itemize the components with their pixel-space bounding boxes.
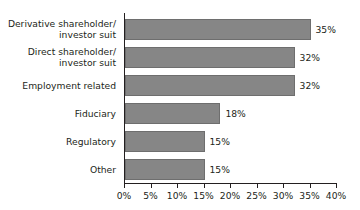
bar [125, 103, 220, 124]
bar-value-label: 15% [210, 127, 230, 155]
y-axis-line [124, 13, 125, 184]
x-tick [151, 184, 152, 188]
bar-value-label: 32% [300, 43, 320, 71]
x-tick-label: 40% [326, 190, 346, 201]
bar-value-label: 35% [316, 15, 336, 43]
x-tick-label: 0% [117, 190, 132, 201]
bar-row: Direct shareholder/ investor suit32% [0, 43, 360, 71]
x-tick-label: 15% [193, 190, 213, 201]
bar-chart: Derivative shareholder/ investor suit35%… [0, 0, 360, 210]
bar-value-label: 15% [210, 155, 230, 183]
bar-row: Employment related32% [0, 71, 360, 99]
category-label: Regulatory [0, 127, 120, 155]
category-label: Employment related [0, 71, 120, 99]
bar-value-label: 32% [300, 71, 320, 99]
x-tick [283, 184, 284, 188]
x-tick-label: 30% [273, 190, 293, 201]
x-tick [310, 184, 311, 188]
x-tick [257, 184, 258, 188]
x-tick-label: 25% [246, 190, 266, 201]
bar-row: Other15% [0, 155, 360, 183]
x-tick [230, 184, 231, 188]
bar [125, 19, 311, 40]
x-tick-label: 10% [167, 190, 187, 201]
bar-row: Fiduciary18% [0, 99, 360, 127]
bar [125, 159, 205, 180]
bar [125, 47, 295, 68]
bar-value-label: 18% [225, 99, 245, 127]
x-tick [336, 184, 337, 188]
category-label: Direct shareholder/ investor suit [0, 43, 120, 71]
bar-row: Derivative shareholder/ investor suit35% [0, 15, 360, 43]
category-label: Other [0, 155, 120, 183]
x-tick [124, 184, 125, 188]
bar [125, 131, 205, 152]
x-tick-label: 20% [220, 190, 240, 201]
plot-area: Derivative shareholder/ investor suit35%… [0, 0, 360, 210]
x-tick-label: 5% [143, 190, 158, 201]
category-label: Fiduciary [0, 99, 120, 127]
x-tick [177, 184, 178, 188]
bar [125, 75, 295, 96]
x-tick-label: 35% [299, 190, 319, 201]
category-label: Derivative shareholder/ investor suit [0, 15, 120, 43]
bar-row: Regulatory15% [0, 127, 360, 155]
x-tick [204, 184, 205, 188]
